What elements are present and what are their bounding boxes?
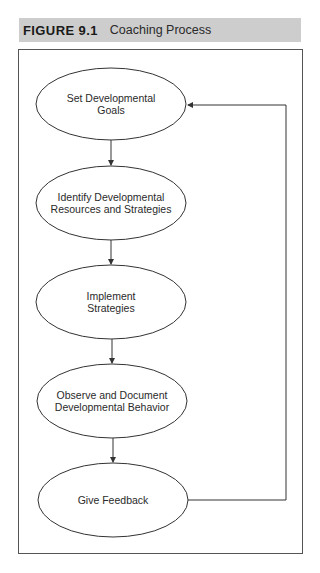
node-label-feedback: Give Feedback bbox=[38, 484, 188, 516]
node-label-resources: Identify Developmental Resources and Str… bbox=[36, 187, 186, 219]
node-label-observe: Observe and Document Developmental Behav… bbox=[37, 385, 187, 417]
arrow-feedback-to-goals bbox=[188, 105, 286, 500]
node-label-goals: Set Developmental Goals bbox=[36, 88, 186, 120]
node-label-implement: Implement Strategies bbox=[36, 286, 186, 318]
